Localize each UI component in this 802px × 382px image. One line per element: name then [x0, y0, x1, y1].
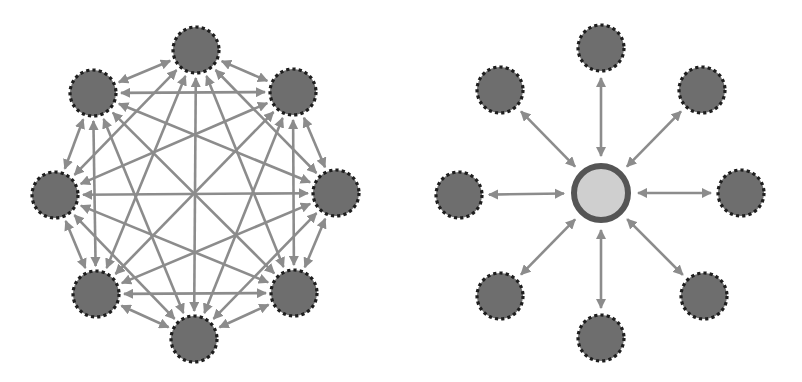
network-node	[718, 170, 764, 216]
network-node	[73, 271, 119, 317]
bidirectional-arrow	[81, 206, 268, 283]
network-node	[70, 70, 116, 116]
bidirectional-arrow	[66, 221, 86, 268]
bidirectional-arrow	[219, 305, 268, 328]
star-nodes	[436, 25, 764, 361]
star-diagram	[436, 25, 764, 361]
network-node	[313, 170, 359, 216]
bidirectional-arrow	[489, 194, 564, 195]
bidirectional-arrow	[93, 121, 95, 266]
network-node	[32, 172, 78, 218]
mesh-diagram	[32, 27, 359, 362]
diagram-canvas	[0, 0, 802, 382]
network-topology-figure	[0, 0, 802, 382]
bidirectional-arrow	[627, 111, 681, 166]
bidirectional-arrow	[65, 119, 83, 169]
bidirectional-arrow	[305, 219, 325, 267]
bidirectional-arrow	[121, 92, 265, 93]
bidirectional-arrow	[222, 61, 268, 81]
bidirectional-arrow	[121, 306, 168, 328]
network-node	[171, 316, 217, 362]
hub-node	[574, 166, 628, 220]
bidirectional-arrow	[304, 118, 325, 167]
bidirectional-arrow	[124, 293, 266, 294]
bidirectional-arrow	[521, 111, 575, 166]
network-node	[679, 67, 725, 113]
network-node	[173, 27, 219, 73]
bidirectional-arrow	[627, 219, 683, 275]
bidirectional-arrow	[521, 219, 575, 274]
network-node	[270, 69, 316, 115]
network-node	[477, 67, 523, 113]
network-node	[578, 25, 624, 71]
network-node	[477, 273, 523, 319]
bidirectional-arrow	[119, 61, 170, 82]
network-node	[681, 273, 727, 319]
network-node	[578, 315, 624, 361]
network-node	[271, 270, 317, 316]
network-node	[436, 172, 482, 218]
